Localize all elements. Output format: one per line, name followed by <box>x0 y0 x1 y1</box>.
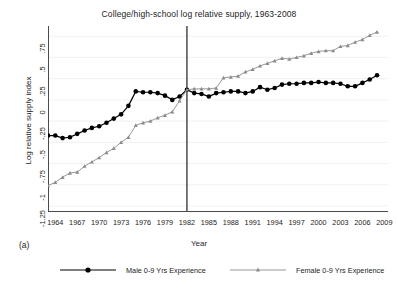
plot-panel <box>48 26 388 212</box>
data-point <box>97 124 102 129</box>
legend-item-female[interactable]: Female 0-9 Yrs Experience <box>228 262 384 278</box>
data-point <box>375 30 379 34</box>
data-point <box>83 164 87 168</box>
legend-label: Female 0-9 Yrs Experience <box>296 266 384 275</box>
data-point <box>82 128 87 133</box>
data-point <box>316 80 321 85</box>
legend-key-female <box>228 264 288 276</box>
data-point <box>345 84 350 89</box>
data-point <box>338 81 343 86</box>
data-point <box>163 113 167 117</box>
data-point <box>360 81 365 86</box>
data-point <box>192 91 197 96</box>
figure-root: College/high-school log relative supply,… <box>0 0 398 292</box>
data-point <box>148 90 153 95</box>
data-point <box>104 151 108 155</box>
data-point <box>68 135 73 140</box>
data-point <box>367 77 372 82</box>
data-point <box>119 112 124 117</box>
data-point <box>199 92 204 97</box>
legend-item-male[interactable]: Male 0-9 Yrs Experience <box>58 262 206 278</box>
data-point <box>287 81 292 86</box>
data-point <box>302 81 307 86</box>
data-point <box>221 90 226 95</box>
series-line <box>48 75 377 138</box>
data-point <box>170 98 175 103</box>
legend-key-glyph <box>58 264 118 276</box>
data-point <box>375 73 380 78</box>
data-point <box>75 132 80 137</box>
data-point <box>280 82 285 87</box>
data-point <box>294 81 299 86</box>
data-point <box>309 81 314 86</box>
data-point <box>60 136 65 141</box>
data-point <box>48 133 50 138</box>
data-point <box>258 85 263 90</box>
data-point <box>104 121 109 126</box>
data-point <box>207 94 212 99</box>
x-tick-label: 2009 <box>371 218 397 227</box>
y-axis-label: Log relative supply index <box>24 46 33 196</box>
data-point <box>133 89 138 94</box>
series-male <box>48 73 379 140</box>
data-point <box>243 91 248 96</box>
legend-label: Male 0-9 Yrs Experience <box>126 266 206 275</box>
data-point <box>90 126 95 131</box>
legend-marker <box>85 267 90 272</box>
data-point <box>163 93 168 98</box>
data-point <box>331 81 336 86</box>
data-point <box>250 89 255 94</box>
panel-letter: (a) <box>19 240 29 250</box>
data-point <box>272 86 277 91</box>
data-point <box>53 133 58 138</box>
data-point <box>229 89 234 94</box>
data-point <box>61 175 65 179</box>
data-point <box>155 91 160 96</box>
data-point <box>90 160 94 164</box>
data-point <box>112 116 117 121</box>
data-point <box>141 90 146 95</box>
data-point <box>324 81 329 86</box>
data-point <box>251 67 255 71</box>
chart-title: College/high-school log relative supply,… <box>0 9 398 19</box>
data-point <box>236 89 241 94</box>
data-point <box>368 33 372 37</box>
plot-canvas <box>48 26 388 212</box>
data-point <box>360 38 364 42</box>
data-point <box>353 84 358 89</box>
x-axis-label: Year <box>0 239 398 248</box>
data-point <box>214 91 219 96</box>
legend-key-glyph <box>228 264 288 276</box>
chart-legend: Male 0-9 Yrs ExperienceFemale 0-9 Yrs Ex… <box>0 262 398 280</box>
legend-key-male <box>58 264 118 276</box>
series-line <box>48 32 377 186</box>
data-point <box>265 87 270 92</box>
data-point <box>126 104 131 109</box>
